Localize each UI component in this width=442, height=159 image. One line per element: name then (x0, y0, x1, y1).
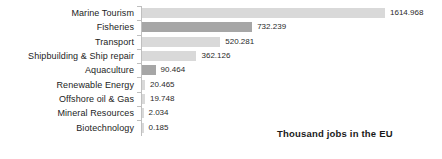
category-label: Transport (0, 37, 134, 47)
bar-row: Transport520.281 (0, 35, 442, 49)
axis-tick (137, 106, 141, 107)
bar (142, 22, 252, 32)
axis-tick (137, 120, 141, 121)
category-label: Marine Tourism (0, 8, 134, 18)
bar-rows: Marine Tourism1614.968Fisheries732.239Tr… (0, 6, 442, 135)
bar-value-label: 2.034 (149, 108, 169, 118)
category-label: Aquaculture (0, 65, 134, 75)
bar (142, 94, 145, 104)
bar (142, 65, 156, 75)
axis-tick (137, 77, 141, 78)
category-label: Offshore oil & Gas (0, 94, 134, 104)
bar-row: Shipbuilding & Ship repair362.126 (0, 49, 442, 63)
category-label: Shipbuilding & Ship repair (0, 51, 134, 61)
bar-chart: Marine Tourism1614.968Fisheries732.239Tr… (0, 0, 442, 159)
axis-tick (137, 92, 141, 93)
axis-tick (137, 63, 141, 64)
bar-value-label: 1614.968 (390, 8, 423, 18)
bar-value-label: 362.126 (201, 51, 230, 61)
bar (142, 51, 196, 61)
category-label: Mineral Resources (0, 108, 134, 118)
bar-row: Renewable Energy20.465 (0, 77, 442, 91)
bar-with-value: 90.464 (142, 65, 185, 75)
category-label: Fisheries (0, 22, 134, 32)
bar-value-label: 0.185 (149, 123, 169, 133)
bar-value-label: 90.464 (161, 65, 185, 75)
category-label: Biotechnology (0, 123, 134, 133)
bar-row: Mineral Resources2.034 (0, 106, 442, 120)
bar (142, 108, 144, 118)
bar-with-value: 19.748 (142, 94, 174, 104)
bar-with-value: 520.281 (142, 37, 254, 47)
bar (142, 8, 385, 18)
bar-row: Marine Tourism1614.968 (0, 6, 442, 20)
bar-with-value: 0.185 (142, 123, 169, 133)
bar-with-value: 20.465 (142, 80, 175, 90)
bar-with-value: 2.034 (142, 108, 169, 118)
bar-row: Aquaculture90.464 (0, 63, 442, 77)
bar-row: Offshore oil & Gas19.748 (0, 92, 442, 106)
axis-tick (137, 49, 141, 50)
bar-with-value: 1614.968 (142, 8, 423, 18)
bar-value-label: 732.239 (257, 22, 286, 32)
bar (142, 37, 220, 47)
chart-annotation: Thousand jobs in the EU (277, 128, 393, 139)
axis-tick (137, 6, 141, 7)
axis-tick (137, 35, 141, 36)
bar-value-label: 520.281 (225, 37, 254, 47)
bar-with-value: 362.126 (142, 51, 230, 61)
axis-tick (137, 20, 141, 21)
category-label: Renewable Energy (0, 80, 134, 90)
bar-value-label: 19.748 (150, 94, 174, 104)
bar-with-value: 732.239 (142, 22, 286, 32)
bar-row: Fisheries732.239 (0, 20, 442, 34)
plot-area: Marine Tourism1614.968Fisheries732.239Tr… (0, 0, 442, 159)
bar-value-label: 20.465 (150, 80, 174, 90)
bar (142, 123, 144, 133)
bar (142, 80, 145, 90)
